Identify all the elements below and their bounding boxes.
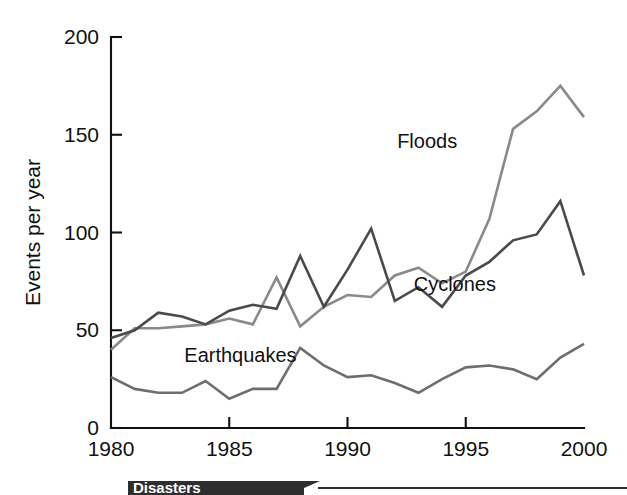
y-tick-label-100: 100 xyxy=(64,221,99,244)
series-lines xyxy=(111,86,584,399)
bottom-banner: Disasters xyxy=(128,481,304,495)
y-tick-label-150: 150 xyxy=(64,123,99,146)
banner-horizontal-rule xyxy=(318,487,627,489)
chart-canvas: 050100150200 19801985199019952000 Events… xyxy=(0,0,627,495)
x-tick-label-1985: 1985 xyxy=(206,437,253,460)
x-axis-ticks: 19801985199019952000 xyxy=(88,417,608,460)
x-tick-label-1990: 1990 xyxy=(324,437,371,460)
series-line-floods xyxy=(111,86,584,350)
y-tick-label-50: 50 xyxy=(76,318,99,341)
series-line-cyclones xyxy=(111,201,584,338)
series-label-cyclones: Cyclones xyxy=(414,273,496,295)
series-line-earthquakes xyxy=(111,344,584,399)
series-label-earthquakes: Earthquakes xyxy=(184,344,296,366)
x-axis-group: 19801985199019952000 xyxy=(88,417,608,460)
x-tick-label-1995: 1995 xyxy=(442,437,489,460)
series-label-floods: Floods xyxy=(397,130,457,152)
x-tick-label-1980: 1980 xyxy=(88,437,135,460)
y-tick-label-200: 200 xyxy=(64,25,99,48)
disaster-events-line-chart: 050100150200 19801985199019952000 Events… xyxy=(0,0,627,495)
bottom-banner-label: Disasters xyxy=(128,481,304,495)
y-axis-title: Events per year xyxy=(21,159,44,306)
x-tick-label-2000: 2000 xyxy=(561,437,608,460)
series-annotations: FloodsCyclonesEarthquakes xyxy=(184,130,496,365)
y-tick-label-0: 0 xyxy=(87,416,99,439)
